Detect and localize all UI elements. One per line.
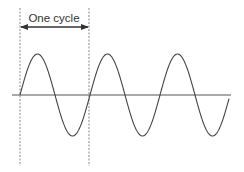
one-cycle-label: One cycle [28, 12, 79, 24]
sine-wave-diagram: One cycle [0, 0, 244, 172]
